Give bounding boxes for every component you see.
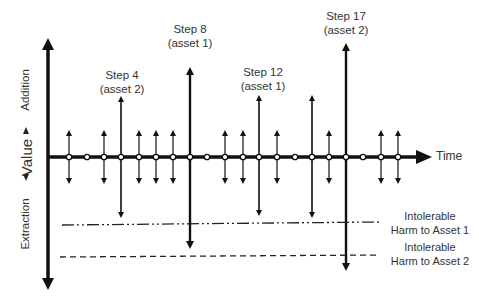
value-axis-label: Value — [18, 133, 35, 183]
threshold-asset1-label: Intolerable Harm to Asset 1 — [382, 209, 478, 237]
step4-step-text: Step 4 — [96, 68, 148, 82]
step17-step-text: Step 17 — [318, 9, 374, 23]
value-time-diagram: Time Addition Value Extraction Step 4 (a… — [0, 0, 479, 303]
threshold-asset2-line — [60, 255, 380, 257]
step8-label: Step 8 (asset 1) — [164, 22, 216, 50]
threshold-asset2-label: Intolerable Harm to Asset 2 — [382, 240, 478, 268]
step12-step-text: Step 12 — [235, 65, 291, 79]
threshold-asset1-line2: Harm to Asset 1 — [382, 223, 478, 237]
threshold-asset1-line — [62, 222, 380, 225]
threshold-asset1-line1: Intolerable — [382, 209, 478, 223]
step12-asset-text: (asset 1) — [235, 79, 291, 93]
time-axis-label: Time — [436, 149, 462, 163]
threshold-asset2-line2: Harm to Asset 2 — [382, 254, 478, 268]
step8-asset-text: (asset 1) — [164, 36, 216, 50]
step8-step-text: Step 8 — [164, 22, 216, 36]
step4-asset-text: (asset 2) — [96, 82, 148, 96]
addition-label: Addition — [19, 60, 31, 120]
step17-label: Step 17 (asset 2) — [318, 9, 374, 37]
step4-label: Step 4 (asset 2) — [96, 68, 148, 96]
step17-asset-text: (asset 2) — [318, 23, 374, 37]
step12-label: Step 12 (asset 1) — [235, 65, 291, 93]
threshold-asset2-line1: Intolerable — [382, 240, 478, 254]
extraction-label: Extraction — [19, 189, 31, 259]
